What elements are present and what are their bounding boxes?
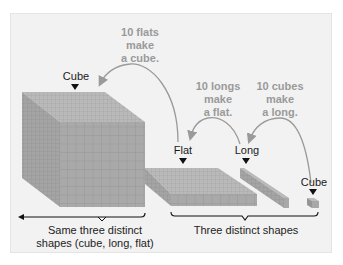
caption-left: Same three distinct shapes (cube, long, … [30, 224, 160, 250]
cube-small-pointer-icon [309, 189, 317, 195]
flat-pointer-icon [179, 158, 187, 164]
left-bracket-arrow [18, 213, 145, 221]
small-cube-block [307, 198, 319, 208]
note-cubes-to-long: 10 cubes make a long. [246, 80, 314, 119]
flat-label: Flat [168, 144, 198, 156]
right-brace [171, 212, 318, 220]
long-pointer-icon [242, 158, 250, 164]
cube-large-pointer-icon [71, 84, 79, 90]
caption-right: Three distinct shapes [186, 224, 306, 237]
note-longs-to-flat: 10 longs make a flat. [186, 80, 250, 119]
cube-large-label: Cube [58, 70, 94, 82]
note-flats-to-cube: 10 flats make a cube. [108, 26, 172, 65]
arrow-longs-to-flat-icon [191, 118, 240, 144]
cube-small-label: Cube [297, 176, 331, 188]
long-label: Long [230, 144, 264, 156]
large-cube-block [22, 92, 145, 207]
